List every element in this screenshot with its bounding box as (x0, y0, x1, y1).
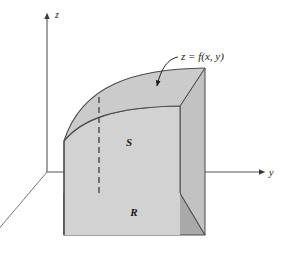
x-axis (0, 172, 47, 231)
base-region-label-R: R (129, 206, 137, 218)
figure-container: z = f(x, y) S R z y (0, 0, 286, 266)
y-axis-label: y (268, 167, 274, 178)
z-axis-label: z (54, 9, 59, 20)
volume-under-surface-diagram: z = f(x, y) S R z y (0, 0, 286, 266)
surface-equation-label: z = f(x, y) (180, 50, 224, 63)
solid-region-label-S: S (126, 136, 132, 148)
